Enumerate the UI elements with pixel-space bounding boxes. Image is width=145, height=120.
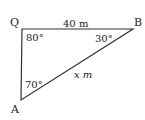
angle-label-B: 30° <box>95 33 113 44</box>
side-label-AB: x m <box>74 69 92 80</box>
angle-label-A: 70° <box>25 79 43 90</box>
vertex-label-Q: Q <box>10 16 19 29</box>
vertex-label-A: A <box>10 103 20 116</box>
triangle-diagram: Q B A 40 m x m 80° 30° 70° <box>0 0 145 120</box>
side-label-QB: 40 m <box>63 18 89 29</box>
angle-label-Q: 80° <box>26 32 44 43</box>
vertex-label-B: B <box>134 16 142 29</box>
